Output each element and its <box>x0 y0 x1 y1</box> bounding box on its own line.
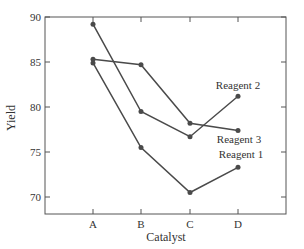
y-tick-label: 80 <box>30 101 42 113</box>
y-axis-ticks: 7075808590 <box>30 11 286 203</box>
x-tick-label: B <box>137 218 144 230</box>
y-tick-label: 85 <box>30 56 42 68</box>
data-point <box>188 190 193 195</box>
data-point <box>91 22 96 27</box>
x-tick-label: D <box>234 218 242 230</box>
data-point <box>236 94 241 99</box>
data-point <box>91 57 96 62</box>
data-point <box>236 165 241 170</box>
x-tick-label: A <box>89 218 97 230</box>
series-label: Reagent 2 <box>216 79 260 91</box>
series-label: Reagent 1 <box>219 148 263 160</box>
data-point <box>139 62 144 67</box>
data-point <box>188 134 193 139</box>
data-point <box>139 109 144 114</box>
series-lines <box>91 22 241 195</box>
x-tick-label: C <box>186 218 193 230</box>
data-point <box>188 121 193 126</box>
data-point <box>139 145 144 150</box>
series-labels: Reagent 1Reagent 2Reagent 3 <box>216 79 263 160</box>
y-tick-label: 90 <box>30 11 42 23</box>
series-line <box>93 59 238 130</box>
line-chart: 7075808590 ABCD Reagent 1Reagent 2Reagen… <box>0 0 304 249</box>
series-label: Reagent 3 <box>217 133 262 145</box>
plot-frame <box>45 17 286 214</box>
y-tick-label: 70 <box>30 191 42 203</box>
x-axis-label: Catalyst <box>146 230 186 244</box>
y-tick-label: 75 <box>30 146 42 158</box>
y-axis-label: Yield <box>4 105 18 131</box>
